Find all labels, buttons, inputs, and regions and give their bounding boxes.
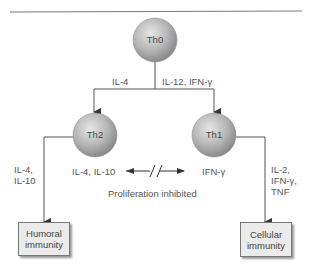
node-th2-label: Th2: [73, 129, 117, 140]
top-rule: [10, 11, 302, 12]
break-mark: [150, 165, 155, 177]
label-line: TNF: [271, 186, 297, 197]
node-th1-label: Th1: [192, 129, 236, 140]
arrow-to-humoral: [44, 137, 74, 222]
edge-label-il4: IL-4: [112, 76, 128, 87]
box-line: Humoral: [25, 228, 63, 239]
label-line: IL-4,: [14, 164, 36, 175]
inhibition-caption: Proliferation inhibited: [108, 188, 197, 199]
edge-label-th2-humoral: IL-4, IL-10: [14, 164, 36, 186]
outcome-cellular-box: Cellular immunity: [240, 222, 292, 257]
box-line: Cellular: [247, 229, 285, 240]
label-line: IL-10: [14, 175, 36, 186]
inhibition-right-label: IFN-γ: [202, 166, 225, 177]
box-line: immunity: [247, 240, 285, 251]
box-line: immunity: [25, 239, 63, 250]
inhibition-left-label: IL-4, IL-10: [72, 166, 115, 177]
label-line: IFN-γ,: [271, 175, 297, 186]
edge-label-th1-cellular: IL-2, IFN-γ, TNF: [271, 164, 297, 197]
outcome-humoral-box: Humoral immunity: [18, 222, 70, 256]
label-line: IL-2,: [271, 164, 297, 175]
node-th0-label: Th0: [133, 34, 177, 45]
edge-label-il12-ifng: IL-12, IFN-γ: [162, 76, 212, 87]
arrow-to-cellular: [236, 137, 265, 222]
